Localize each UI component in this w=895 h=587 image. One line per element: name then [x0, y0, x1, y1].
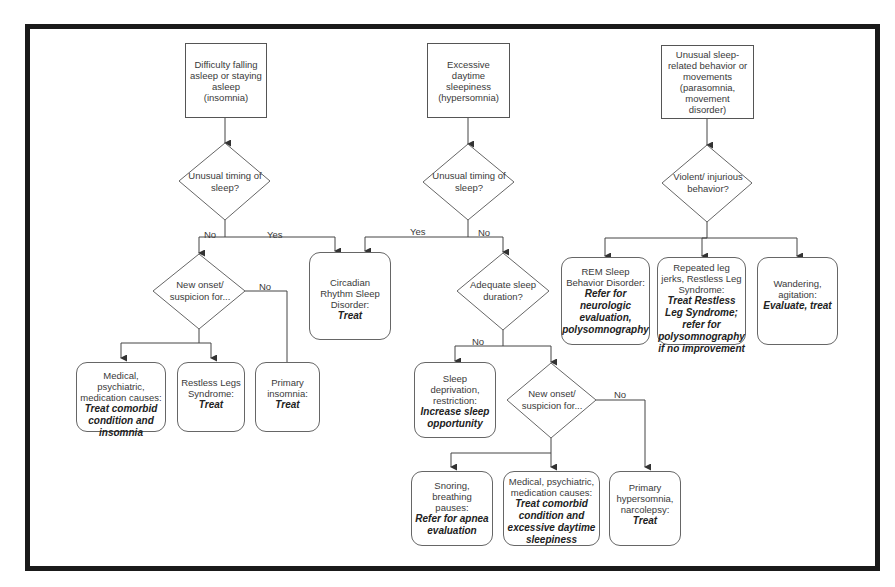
- edge-label-d4-no: No: [472, 336, 484, 347]
- outcome-action: Refer for neurologic evaluation, polysom…: [562, 288, 649, 336]
- outcome-action: Treat comorbid condition and excessive d…: [507, 498, 596, 546]
- decision-d6-text: Violent/ injurious behavior?: [668, 169, 748, 197]
- outcome-insomnia-primary: Primary insomnia: Treat: [255, 362, 320, 432]
- outcome-action: Treat comorbid condition and insomnia: [80, 403, 162, 439]
- outcome-desc: Medical, psychiatric, medication causes:: [80, 370, 162, 403]
- start-text: Difficulty falling asleep or staying asl…: [190, 59, 262, 103]
- outcome-action: Treat Restless Leg Syndrome; refer for p…: [658, 295, 745, 355]
- outcome-hypersomnia-primary: Primary hypersomnia, narcolepsy: Treat: [609, 471, 681, 546]
- start-text: Unusual sleep-related behavior or moveme…: [666, 49, 749, 115]
- outcome-desc: Circadian Rhythm Sleep Disorder:: [313, 277, 387, 310]
- outcome-rem-behavior: REM Sleep Behavior Disorder: Refer for n…: [561, 257, 650, 345]
- start-box-hypersomnia: Excessive daytime sleepiness (hypersomni…: [427, 43, 510, 118]
- outcome-snoring: Snoring, breathing pauses: Refer for apn…: [411, 471, 493, 546]
- edge-label-d5-no: No: [614, 389, 626, 400]
- outcome-insomnia-medical: Medical, psychiatric, medication causes:…: [76, 362, 166, 432]
- outcome-action: Treat: [338, 310, 362, 322]
- edge-label-d2-no: No: [259, 281, 271, 292]
- outcome-leg-jerks: Repeated leg jerks, Restless Leg Syndrom…: [657, 257, 746, 345]
- decision-d1-text: Unusual timing of sleep?: [185, 168, 265, 196]
- outcome-action: Treat: [633, 515, 657, 527]
- outcome-action: Treat: [275, 399, 299, 411]
- outcome-action: Increase sleep opportunity: [418, 406, 492, 430]
- edge-label-d3-yes: Yes: [410, 226, 426, 237]
- outcome-sleep-deprivation: Sleep deprivation, restriction: Increase…: [414, 362, 496, 438]
- outcome-desc: Snoring, breathing pauses:: [415, 480, 489, 513]
- decision-d4-text: Adequate sleep duration?: [463, 277, 543, 305]
- outcome-action: Evaluate, treat: [763, 300, 831, 312]
- outcome-action: Refer for apnea evaluation: [415, 513, 489, 537]
- edge-label-d1-yes: Yes: [267, 229, 283, 240]
- decision-d2-text: New onset/ suspicion for...: [160, 277, 240, 305]
- start-box-parasomnia: Unusual sleep-related behavior or moveme…: [661, 45, 754, 119]
- start-box-insomnia: Difficulty falling asleep or staying asl…: [185, 43, 267, 118]
- edge-label-d3-no: No: [478, 227, 490, 238]
- outcome-desc: Repeated leg jerks, Restless Leg Syndrom…: [661, 262, 742, 295]
- outcome-hypersomnia-medical: Medical, psychiatric, medication causes:…: [503, 471, 600, 546]
- outcome-desc: Primary hypersomnia, narcolepsy:: [613, 482, 677, 515]
- outcome-insomnia-rls: Restless Legs Syndrome: Treat: [177, 362, 245, 432]
- outcome-desc: Primary insomnia:: [259, 377, 316, 399]
- outcome-desc: Sleep deprivation, restriction:: [418, 373, 492, 406]
- start-text: Excessive daytime sleepiness (hypersomni…: [432, 59, 505, 103]
- decision-d3-text: Unusual timing of sleep?: [430, 168, 508, 196]
- outcome-circadian: Circadian Rhythm Sleep Disorder: Treat: [309, 252, 391, 340]
- outcome-desc: Restless Legs Syndrome:: [181, 377, 241, 399]
- outcome-action: Treat: [199, 399, 223, 411]
- outcome-wandering: Wandering, agitation: Evaluate, treat: [757, 257, 838, 345]
- outcome-desc: Wandering, agitation:: [761, 278, 834, 300]
- outcome-desc: REM Sleep Behavior Disorder:: [565, 266, 646, 288]
- edge-label-d1-no: No: [204, 229, 216, 240]
- outcome-desc: Medical, psychiatric, medication causes:: [507, 476, 596, 498]
- decision-d5-text: New onset/ suspicion for...: [512, 386, 592, 414]
